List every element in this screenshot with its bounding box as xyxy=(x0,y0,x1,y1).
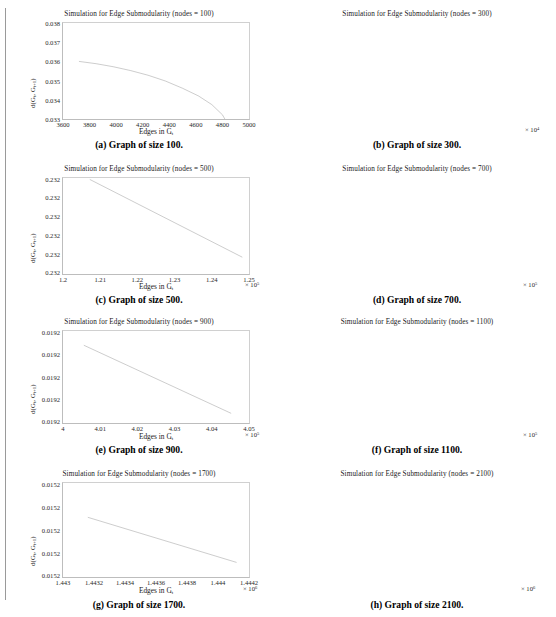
x-axis-label-e: Edges in Gt xyxy=(62,432,250,441)
panel-caption-g: (g) Graph of size 1700. xyxy=(0,599,278,610)
panel-caption-d: (d) Graph of size 700. xyxy=(278,294,556,305)
y-tick-label: 0.038 xyxy=(45,20,60,27)
x-axis-exponent-g: × 106 xyxy=(243,585,257,592)
chart-panel-d: Simulation for Edge Submodularity (nodes… xyxy=(278,155,556,310)
x-tick-label: 1.4434 xyxy=(116,579,134,586)
y-tick-label: 0.035 xyxy=(45,77,60,84)
y-tick-label: 0.0152 xyxy=(42,549,60,556)
x-tick-label: 1.4438 xyxy=(178,579,196,586)
panel-caption-a: (a) Graph of size 100. xyxy=(0,139,278,150)
y-tick-label: 0.0152 xyxy=(42,503,60,510)
x-axis-exponent-f: × 105 xyxy=(523,431,537,438)
x-axis-exponent-d: × 105 xyxy=(523,281,537,288)
data-series-g xyxy=(63,483,249,577)
x-axis-label-a: Edges in Gt xyxy=(62,127,250,136)
plot-area-e: 0.01920.01920.01920.01920.019244.014.024… xyxy=(62,330,250,424)
panel-caption-e: (e) Graph of size 900. xyxy=(0,444,278,455)
x-tick-label: 1.4436 xyxy=(147,579,165,586)
x-tick-label: 1.4432 xyxy=(85,579,103,586)
x-axis-label-c: Edges in Gt xyxy=(62,282,250,291)
figure-panel-grid: Simulation for Edge Submodularity (nodes… xyxy=(0,0,556,617)
y-tick-label: 0.232 xyxy=(45,194,60,201)
chart-title-b: Simulation for Edge Submodularity (nodes… xyxy=(278,10,556,18)
chart-panel-h: Simulation for Edge Submodularity (nodes… xyxy=(278,460,556,617)
chart-title-e: Simulation for Edge Submodularity (nodes… xyxy=(0,318,278,326)
chart-title-d: Simulation for Edge Submodularity (nodes… xyxy=(278,165,556,173)
y-tick-label: 0.034 xyxy=(45,96,60,103)
chart-panel-e: Simulation for Edge Submodularity (nodes… xyxy=(0,310,278,460)
y-tick-label: 0.036 xyxy=(45,58,60,65)
chart-panel-b: Simulation for Edge Submodularity (nodes… xyxy=(278,0,556,155)
panel-caption-c: (c) Graph of size 500. xyxy=(0,294,278,305)
x-axis-exponent-e: × 105 xyxy=(245,431,259,438)
chart-title-f: Simulation for Edge Submodularity (nodes… xyxy=(278,318,556,326)
y-tick-label: 0.232 xyxy=(45,231,60,238)
plot-area-g: 0.01520.01520.01520.01520.01521.4431.443… xyxy=(62,482,250,578)
y-tick-label: 0.232 xyxy=(45,269,60,276)
x-axis-label-g: Edges in Gt xyxy=(62,586,250,595)
data-series-e xyxy=(63,331,249,423)
chart-title-h: Simulation for Edge Submodularity (nodes… xyxy=(278,470,556,478)
x-tick-label: 1.444 xyxy=(211,579,226,586)
x-axis-exponent-c: × 105 xyxy=(245,281,259,288)
plot-area-a: 0.0330.0340.0350.0360.0370.0383600380040… xyxy=(62,22,250,120)
plot-area-c: 0.2320.2320.2320.2320.2320.2321.21.211.2… xyxy=(62,177,250,275)
y-tick-label: 0.0152 xyxy=(42,527,60,534)
chart-title-a: Simulation for Edge Submodularity (nodes… xyxy=(0,10,278,18)
panel-caption-b: (b) Graph of size 300. xyxy=(278,139,556,150)
y-tick-label: 0.0192 xyxy=(42,374,60,381)
x-tick-label: 4.04 xyxy=(206,425,218,432)
x-tick-label: 1.443 xyxy=(56,579,71,586)
y-tick-label: 0.0152 xyxy=(42,572,60,579)
y-tick-label: 0.0192 xyxy=(42,328,60,335)
y-tick-label: 0.0152 xyxy=(42,480,60,487)
y-tick-label: 0.232 xyxy=(45,175,60,182)
y-tick-label: 0.037 xyxy=(45,39,60,46)
x-tick-label: 4.02 xyxy=(132,425,144,432)
y-tick-label: 0.232 xyxy=(45,250,60,257)
y-axis-label-e: d(Gt, Gt+1) xyxy=(29,385,37,415)
y-axis-label-c: d(Gt, Gt+1) xyxy=(29,234,37,264)
chart-panel-c: Simulation for Edge Submodularity (nodes… xyxy=(0,155,278,310)
data-series-c xyxy=(63,178,249,274)
chart-title-c: Simulation for Edge Submodularity (nodes… xyxy=(0,165,278,173)
chart-panel-g: Simulation for Edge Submodularity (nodes… xyxy=(0,460,278,617)
x-tick-label: 4 xyxy=(61,425,64,432)
panel-caption-h: (h) Graph of size 2100. xyxy=(278,599,556,610)
x-tick-label: 4.01 xyxy=(94,425,106,432)
panel-caption-f: (f) Graph of size 1100. xyxy=(278,444,556,455)
data-series-a xyxy=(63,23,249,119)
y-tick-label: 0.0192 xyxy=(42,396,60,403)
y-axis-label-g: d(Gt, Gt+1) xyxy=(29,537,37,567)
y-tick-label: 0.0192 xyxy=(42,418,60,425)
x-tick-label: 4.03 xyxy=(169,425,181,432)
chart-title-g: Simulation for Edge Submodularity (nodes… xyxy=(0,470,278,478)
y-tick-label: 0.0192 xyxy=(42,351,60,358)
y-tick-label: 0.232 xyxy=(45,213,60,220)
chart-panel-f: Simulation for Edge Submodularity (nodes… xyxy=(278,310,556,460)
chart-panel-a: Simulation for Edge Submodularity (nodes… xyxy=(0,0,278,155)
x-axis-exponent-b: × 104 xyxy=(525,126,539,133)
x-axis-exponent-h: × 106 xyxy=(521,585,535,592)
y-axis-label-a: d(Gt, Gt+1) xyxy=(29,79,37,109)
